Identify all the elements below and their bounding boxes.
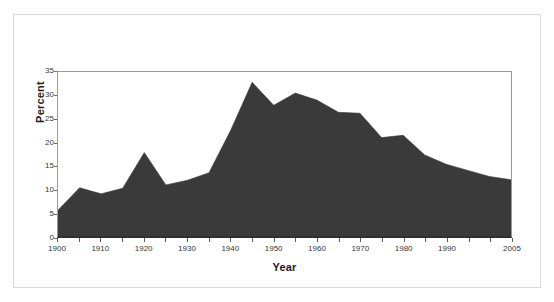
y-tick-label: 0 <box>32 234 54 242</box>
x-tick-mark <box>317 238 318 242</box>
x-tick-label: 1930 <box>167 244 207 254</box>
y-tick-label: 15 <box>32 162 54 170</box>
x-tick-mark <box>79 238 80 242</box>
y-tick-label: 20 <box>32 139 54 147</box>
x-tick-mark <box>382 238 383 242</box>
x-tick-mark <box>425 238 426 242</box>
chart-figure: Percent 05101520253035 19001910192019301… <box>0 0 554 302</box>
x-tick-mark <box>209 238 210 242</box>
x-tick-mark <box>339 238 340 242</box>
x-tick-label: 1900 <box>37 244 77 254</box>
y-axis-ticks: 05101520253035 <box>28 71 54 238</box>
x-tick-label: 1960 <box>297 244 337 254</box>
x-tick-label: 1950 <box>254 244 294 254</box>
y-tick-label: 30 <box>32 91 54 99</box>
x-tick-mark <box>187 238 188 242</box>
x-tick-mark <box>360 238 361 242</box>
x-tick-mark <box>469 238 470 242</box>
x-tick-mark <box>404 238 405 242</box>
x-tick-label: 1940 <box>210 244 250 254</box>
x-tick-mark <box>512 238 513 242</box>
x-axis-title: Year <box>57 261 512 273</box>
x-tick-mark <box>144 238 145 242</box>
x-tick-mark <box>122 238 123 242</box>
x-tick-label: 1990 <box>427 244 467 254</box>
x-tick-mark <box>252 238 253 242</box>
x-tick-mark <box>100 238 101 242</box>
x-tick-mark <box>57 238 58 242</box>
x-tick-mark <box>165 238 166 242</box>
x-tick-mark <box>447 238 448 242</box>
y-tick-label: 10 <box>32 186 54 194</box>
x-tick-label: 1970 <box>340 244 380 254</box>
x-tick-label: 1910 <box>80 244 120 254</box>
x-tick-label: 1920 <box>124 244 164 254</box>
x-tick-mark <box>490 238 491 242</box>
area-series-polygon <box>58 82 511 236</box>
plot-area <box>57 71 512 238</box>
x-tick-mark <box>295 238 296 242</box>
x-tick-mark <box>274 238 275 242</box>
x-tick-label: 1980 <box>384 244 424 254</box>
y-tick-label: 35 <box>32 67 54 75</box>
area-series-svg <box>58 72 511 236</box>
x-tick-label: 2005 <box>492 244 532 254</box>
x-tick-mark <box>230 238 231 242</box>
y-tick-label: 5 <box>32 210 54 218</box>
y-tick-label: 25 <box>32 115 54 123</box>
x-axis-tick-labels: 1900191019201930194019501960197019801990… <box>57 244 512 258</box>
